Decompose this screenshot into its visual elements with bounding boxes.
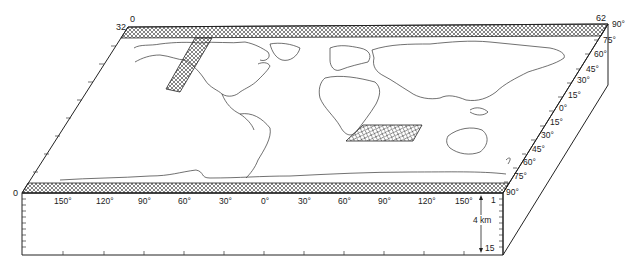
lon-label: 30°: [219, 196, 232, 206]
bottom-ticks: [63, 251, 464, 255]
depth-top-label: 1: [491, 195, 496, 205]
lon-label: 150°: [54, 196, 72, 206]
lat-label: 90°: [612, 19, 625, 29]
front-right-ticks: [499, 199, 503, 247]
lat-label: 30°: [577, 75, 590, 85]
coastlines: [60, 41, 564, 180]
depth-arrow-head-up: [479, 195, 483, 200]
block-diagram: 0 32 62 0 150° 120° 90° 60° 30° 0° 30° 6…: [0, 0, 641, 268]
lat-label: 60°: [523, 157, 536, 167]
lat-label: 45°: [586, 64, 599, 74]
bottom-left-index: 0: [13, 188, 18, 198]
western-north-america-strip: [166, 38, 212, 92]
lat-label: 60°: [594, 49, 607, 59]
lat-label: 75°: [514, 171, 527, 181]
right-edge-ticks: [504, 40, 598, 182]
lon-label: 120°: [418, 196, 436, 206]
lon-label: 0°: [261, 196, 269, 206]
front-left-ticks: [22, 199, 26, 247]
lon-label: 90°: [378, 196, 391, 206]
south-atlantic-patch: [346, 125, 422, 141]
right-face: [503, 24, 608, 255]
lat-label: 15°: [568, 90, 581, 100]
lat-label: 45°: [532, 144, 545, 154]
depth-axis: 1 4 km 15: [473, 195, 496, 253]
longitude-labels: 150° 120° 90° 60° 30° 0° 30° 60° 90° 120…: [54, 196, 473, 206]
south-polar-band: [22, 183, 509, 193]
depth-bottom-label: 15: [485, 243, 495, 253]
lon-label: 30°: [298, 196, 311, 206]
lat-label: 75°: [603, 35, 616, 45]
lon-label: 150°: [455, 196, 473, 206]
lat-label: 30°: [541, 130, 554, 140]
lon-label: 60°: [178, 196, 191, 206]
lon-label: 60°: [338, 196, 351, 206]
top-left-index-top: 0: [130, 14, 135, 24]
top-left-index: 32: [116, 22, 126, 32]
map-surface: [22, 24, 608, 193]
lat-label: 90°: [506, 187, 519, 197]
lon-label: 120°: [96, 196, 114, 206]
depth-mid-label: 4 km: [473, 215, 491, 225]
lat-label: 0°: [559, 103, 567, 113]
top-right-index: 62: [596, 13, 606, 23]
lat-label: 15°: [550, 117, 563, 127]
depth-arrow-head-down: [479, 248, 483, 253]
lon-label: 90°: [138, 196, 151, 206]
